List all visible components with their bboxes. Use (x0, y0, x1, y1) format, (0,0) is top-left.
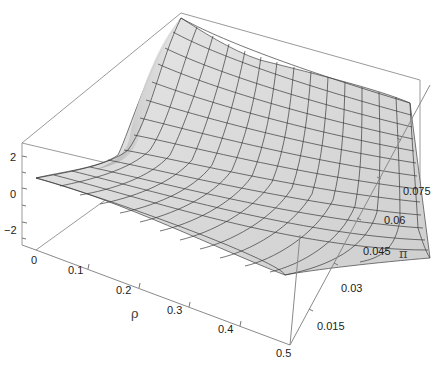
rho-axis-ticks (88, 264, 241, 326)
rho-tick-label: 0.4 (218, 323, 233, 335)
pi-tick-label: 0.03 (341, 282, 362, 294)
z-tick-label: 2 (10, 151, 16, 163)
rho-tick-label: 0.5 (276, 347, 291, 359)
surface (36, 18, 430, 275)
pi-tick-label: 0.045 (363, 245, 391, 257)
z-axis (22, 156, 27, 239)
rho-tick-label: 0.1 (68, 264, 83, 276)
rho-tick-label: 0.2 (116, 284, 131, 296)
surface-plot: 2 0 −2 0 0.1 0.2 0.3 0.4 0.5 ρ 0.015 0.0… (0, 0, 442, 369)
pi-tick-label: 0.06 (384, 214, 405, 226)
pi-tick-label: 0.075 (403, 185, 431, 197)
pi-tick-label: 0.015 (317, 320, 345, 332)
rho-axis-label: ρ (131, 306, 139, 321)
z-tick-label: −2 (4, 224, 17, 236)
pi-axis-label: π (399, 246, 408, 261)
rho-tick-label: 0.3 (167, 304, 182, 316)
z-tick-label: 0 (10, 188, 16, 200)
rho-tick-label: 0 (31, 254, 37, 266)
